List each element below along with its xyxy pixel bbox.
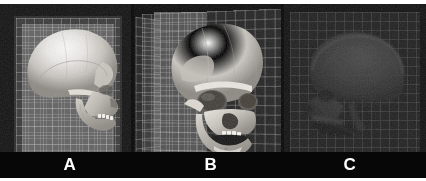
- figure-canvas: A B C: [0, 4, 426, 178]
- panel-label-b: B: [199, 156, 223, 174]
- grid-plane-c: [290, 12, 420, 164]
- panel-label-c: C: [338, 156, 362, 174]
- panel-label-a: A: [58, 156, 82, 174]
- figure-container: A B C: [0, 0, 426, 181]
- grid-plane-b-front: [154, 12, 206, 168]
- grid-plane-a-inner: [22, 24, 114, 152]
